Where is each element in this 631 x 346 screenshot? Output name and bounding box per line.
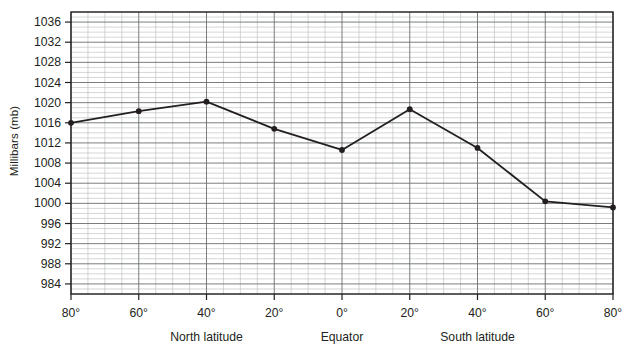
x-group-label: South latitude: [388, 331, 568, 343]
y-tick-label: 988: [17, 258, 61, 270]
y-tick-label: 1012: [17, 137, 61, 149]
data-point-0: [68, 120, 74, 126]
y-tick-label: 1024: [17, 77, 61, 89]
x-tick-label: 0°: [312, 307, 372, 319]
y-tick-label: 1028: [17, 56, 61, 68]
y-tick-label: 1000: [17, 197, 61, 209]
data-point-5: [407, 106, 413, 112]
y-tick-label: 984: [17, 278, 61, 290]
data-point-4: [339, 147, 345, 153]
chart-plot-area: [0, 0, 631, 346]
y-tick-label: 992: [17, 238, 61, 250]
x-tick-label: 20°: [244, 307, 304, 319]
x-tick-label: 60°: [109, 307, 169, 319]
y-tick-label: 1008: [17, 157, 61, 169]
x-tick-label: 40°: [177, 307, 237, 319]
y-tick-label: 1032: [17, 36, 61, 48]
x-tick-label: 60°: [515, 307, 575, 319]
y-tick-label: 1020: [17, 97, 61, 109]
data-point-8: [610, 204, 616, 210]
y-tick-label: 1016: [17, 117, 61, 129]
data-point-6: [475, 145, 481, 151]
x-tick-label: 40°: [448, 307, 508, 319]
x-tick-label: 80°: [583, 307, 631, 319]
y-tick-label: 1004: [17, 177, 61, 189]
data-point-7: [542, 198, 548, 204]
data-point-2: [204, 99, 210, 105]
x-tick-label: 20°: [380, 307, 440, 319]
y-tick-label: 996: [17, 218, 61, 230]
data-point-3: [271, 126, 277, 132]
data-point-1: [136, 108, 142, 114]
y-tick-label: 1036: [17, 16, 61, 28]
pressure-by-latitude-chart: Millibars (mb) 1036103210281024102010161…: [0, 0, 631, 346]
x-tick-label: 80°: [41, 307, 101, 319]
